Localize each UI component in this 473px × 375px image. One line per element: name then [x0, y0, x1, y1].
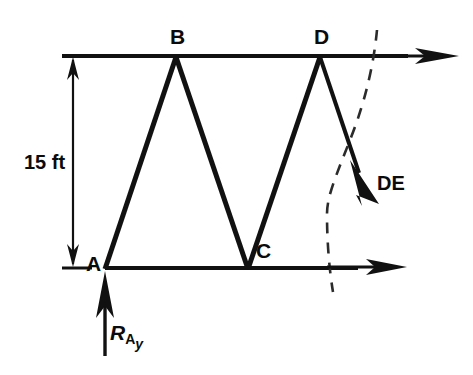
reaction-label-sub-a: A — [125, 331, 135, 347]
joint-label-b: B — [170, 26, 185, 47]
force-arrow-de — [350, 160, 379, 206]
joint-label-a: A — [86, 253, 101, 274]
reaction-label-ray: RAy — [110, 322, 143, 351]
section-cut-line — [327, 30, 377, 292]
truss-members — [62, 56, 408, 269]
member-cd — [248, 57, 320, 269]
force-label-de: DE — [377, 173, 405, 193]
reaction-label-sub-y: y — [135, 336, 143, 352]
member-de — [320, 57, 359, 173]
truss-diagram: B D C A 15 ft DE RAy — [0, 0, 473, 375]
dimension-label-height: 15 ft — [24, 152, 65, 172]
reaction-label-symbol: R — [110, 321, 125, 344]
force-arrow-top-chord — [395, 48, 459, 64]
member-bc — [176, 57, 248, 269]
dimension-15ft — [62, 56, 92, 268]
force-arrow-bottom-chord — [327, 259, 407, 275]
member-ab — [105, 57, 176, 269]
joint-label-c: C — [256, 240, 271, 261]
joint-label-d: D — [314, 26, 329, 47]
